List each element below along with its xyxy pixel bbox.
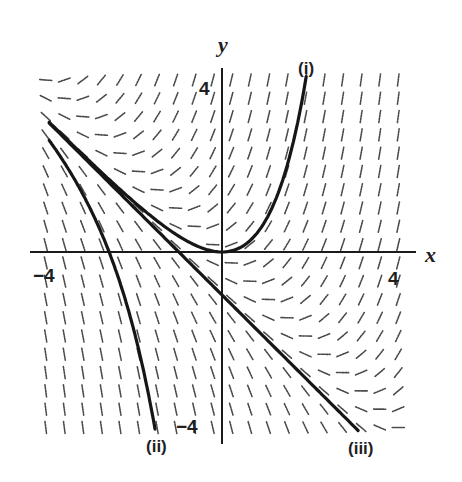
slope-segment	[357, 331, 364, 340]
slope-segment	[41, 112, 50, 120]
slope-segment	[210, 166, 216, 176]
slope-segment	[397, 165, 399, 177]
slope-segment	[360, 220, 363, 232]
slope-segment	[100, 312, 103, 324]
slope-segment	[192, 367, 195, 379]
slope-segment	[379, 129, 381, 141]
slope-segment	[360, 129, 362, 141]
slope-segment	[118, 312, 121, 324]
slope-segment	[170, 208, 182, 209]
slope-segment	[323, 74, 325, 86]
slope-segment	[63, 403, 65, 415]
x-tick-label-pos: 4	[388, 268, 399, 289]
slope-segment	[154, 258, 160, 268]
slope-segment	[138, 422, 140, 434]
slope-segment	[263, 315, 274, 320]
slope-segment	[118, 294, 121, 306]
slope-segment	[117, 239, 122, 250]
slope-segment	[283, 368, 290, 378]
slope-segment	[265, 367, 271, 377]
slope-segment	[228, 313, 235, 323]
slope-segment	[156, 403, 158, 415]
slope-segment	[44, 184, 48, 195]
slope-segment	[136, 257, 141, 268]
slope-segment	[378, 275, 382, 286]
slope-segment	[246, 222, 254, 231]
slope-segment	[59, 78, 70, 82]
slope-segment	[63, 239, 66, 251]
slope-segment	[248, 129, 251, 141]
slope-segment	[155, 74, 159, 85]
slope-segment	[229, 349, 234, 360]
slope-segment	[45, 421, 46, 433]
slope-segment	[156, 385, 159, 397]
slope-segment	[64, 421, 66, 433]
slope-segment	[338, 332, 347, 340]
slope-segment	[360, 147, 362, 159]
slope-segment	[284, 404, 289, 415]
slope-segment	[132, 171, 144, 172]
slope-segment	[341, 202, 344, 214]
slope-segment	[341, 147, 343, 159]
slope-segment	[374, 389, 385, 394]
slope-segment	[341, 166, 344, 178]
slope-segment	[136, 276, 140, 287]
slope-segment	[342, 92, 344, 104]
slope-segment	[303, 239, 308, 250]
slope-segment	[321, 276, 327, 286]
slope-segment	[133, 151, 144, 155]
slope-segment	[322, 221, 326, 232]
slope-segment	[397, 239, 400, 251]
slope-segment	[116, 94, 124, 103]
slope-segment	[174, 385, 177, 397]
slope-segment	[265, 350, 272, 360]
slope-segment	[340, 294, 346, 304]
slope-segment	[137, 385, 139, 397]
slope-segment	[286, 92, 288, 104]
slope-segment	[322, 239, 326, 250]
slope-segment	[341, 221, 344, 233]
slope-segment	[155, 294, 159, 305]
slope-segment	[285, 422, 289, 433]
slope-segment	[210, 331, 215, 342]
slope-segment	[211, 111, 215, 122]
slope-segment	[43, 148, 49, 158]
slope-segment	[301, 296, 310, 304]
slope-segment	[267, 74, 269, 86]
slope-segment	[230, 74, 233, 86]
slope-segment	[393, 407, 404, 412]
slope-segment	[191, 294, 197, 304]
slope-segment	[323, 129, 325, 141]
slope-segment	[300, 315, 311, 320]
slope-segment	[192, 129, 197, 140]
slope-segment	[323, 111, 325, 123]
slope-segment	[45, 367, 47, 379]
slope-segment	[304, 166, 307, 178]
slope-segment	[192, 74, 195, 86]
slope-segment	[378, 202, 381, 214]
slope-segment	[81, 275, 84, 287]
slope-segment	[82, 421, 84, 433]
slope-segment	[119, 421, 121, 433]
slope-segment	[100, 348, 102, 360]
slope-segment	[62, 184, 67, 195]
slope-segment	[63, 275, 66, 287]
slope-segment	[398, 74, 399, 86]
slope-segment	[133, 187, 144, 192]
slope-segment	[156, 367, 159, 379]
slope-segment	[135, 221, 142, 231]
slope-segment	[44, 202, 48, 213]
slope-segment	[136, 75, 141, 86]
slope-segment	[115, 169, 126, 174]
slope-segment	[342, 74, 344, 86]
slope-segment	[267, 111, 270, 123]
slope-segment	[82, 312, 84, 324]
slope-segment	[174, 349, 177, 361]
slope-segment	[341, 184, 344, 196]
slope-segment	[155, 330, 158, 342]
slope-segment	[266, 422, 270, 433]
slope-segment	[360, 184, 363, 196]
slope-segment	[340, 257, 344, 268]
slope-segment	[340, 276, 345, 287]
slope-segment	[300, 352, 311, 357]
